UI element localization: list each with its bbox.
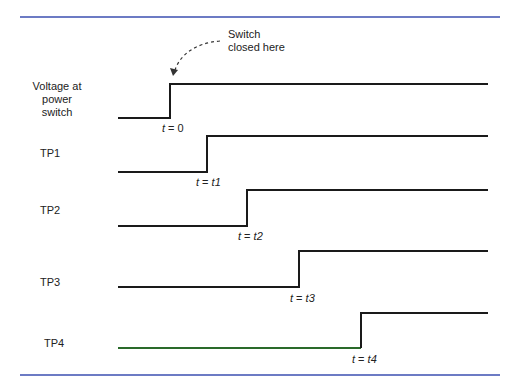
annotation-line-1: Switch — [228, 28, 285, 41]
waveform-tp3 — [118, 251, 488, 287]
time-val: t2 — [254, 230, 263, 242]
time-val: t3 — [306, 292, 315, 304]
timing-diagram — [0, 0, 521, 391]
time-label-t4: t = t4 — [352, 353, 377, 365]
time-label-t1: t = t1 — [196, 176, 221, 188]
label-voltage: Voltage at power switch — [22, 80, 92, 119]
time-label-t3: t = t3 — [290, 292, 315, 304]
label-line: power — [22, 93, 92, 106]
label-tp3: TP3 — [40, 276, 60, 289]
label-tp4: TP4 — [44, 337, 64, 350]
time-var: t — [290, 292, 293, 304]
waveform-tp1 — [118, 136, 488, 172]
time-val: 0 — [178, 122, 184, 134]
time-var: t — [352, 353, 355, 365]
time-val: t1 — [212, 176, 221, 188]
label-line: Voltage at — [22, 80, 92, 93]
time-label-t2: t = t2 — [238, 230, 263, 242]
label-line: switch — [22, 106, 92, 119]
annotation-switch-closed: Switch closed here — [228, 28, 285, 54]
time-var: t — [196, 176, 199, 188]
waveform-voltage — [118, 84, 488, 118]
waveform-tp4-high — [361, 313, 488, 348]
time-label-t0: t = 0 — [162, 122, 184, 134]
time-var: t — [162, 122, 165, 134]
label-tp1: TP1 — [40, 147, 60, 160]
dashed-arrow — [175, 41, 220, 70]
waveform-tp2 — [118, 190, 488, 226]
time-var: t — [238, 230, 241, 242]
arrowhead-icon — [170, 68, 178, 76]
annotation-line-2: closed here — [228, 41, 285, 54]
time-val: t4 — [368, 353, 377, 365]
label-tp2: TP2 — [40, 204, 60, 217]
